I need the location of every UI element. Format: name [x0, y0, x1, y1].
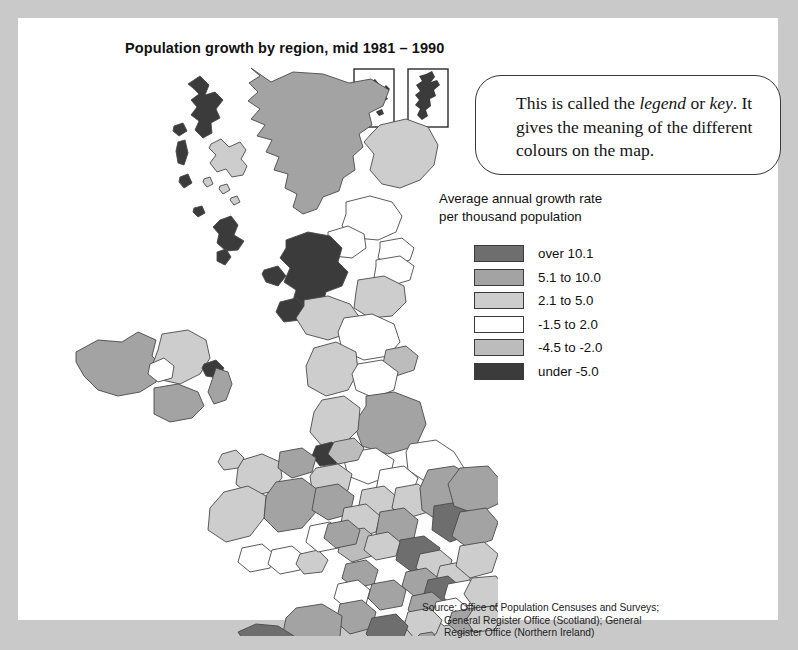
- region-cumbria: [306, 342, 358, 396]
- legend-item: -1.5 to 2.0: [474, 313, 699, 337]
- region-suffolk: [452, 508, 498, 548]
- callout-text-part2: or: [686, 93, 709, 113]
- inset-shetland: [408, 69, 448, 127]
- legend-swatch: [474, 363, 524, 380]
- region-northern-ireland: [76, 330, 232, 422]
- region-grampian: [364, 119, 438, 188]
- callout-italic-key: key: [709, 93, 732, 113]
- figure-page: Population growth by region, mid 1981 – …: [18, 18, 778, 620]
- legend-heading-line2: per thousand population: [439, 208, 699, 226]
- legend-item: -4.5 to -2.0: [474, 336, 699, 360]
- legend-swatch: [474, 245, 524, 262]
- callout-text-part1: This is called the: [516, 93, 639, 113]
- legend-label: under -5.0: [538, 364, 599, 379]
- page-title: Population growth by region, mid 1981 – …: [125, 40, 444, 56]
- legend-heading-line1: Average annual growth rate: [439, 190, 699, 208]
- region-south-glamorgan: [296, 550, 328, 574]
- region-small-isle-c: [230, 196, 240, 205]
- source-line-2: General Register Office (Scotland); Gene…: [422, 615, 659, 628]
- region-wiltshire: [368, 580, 406, 610]
- map-legend: Average annual growth rate per thousand …: [439, 190, 699, 383]
- legend-label: over 10.1: [538, 246, 593, 261]
- callout-italic-legend: legend: [639, 93, 686, 113]
- region-small-isle-b: [219, 184, 230, 194]
- callout-text: This is called the legend or key. It giv…: [516, 92, 768, 163]
- legend-callout-box: This is called the legend or key. It giv…: [475, 75, 781, 175]
- source-note: Source: Office of Population Censuses an…: [422, 602, 659, 640]
- source-line-3: Register Office (Northern Ireland): [422, 627, 659, 640]
- region-arran: [262, 266, 286, 286]
- uk-choropleth-map: .ar{stroke:#4a4a4a;stroke-width:0.9;stro…: [28, 56, 498, 636]
- source-line-1: Source: Office of Population Censuses an…: [422, 602, 659, 613]
- legend-item: 5.1 to 10.0: [474, 266, 699, 290]
- legend-item: under -5.0: [474, 360, 699, 384]
- legend-swatch: [474, 339, 524, 356]
- legend-swatch: [474, 269, 524, 286]
- legend-label: -4.5 to -2.0: [538, 340, 602, 355]
- legend-item: 2.1 to 5.0: [474, 289, 699, 313]
- legend-label: -1.5 to 2.0: [538, 317, 598, 332]
- legend-label: 5.1 to 10.0: [538, 270, 601, 285]
- legend-swatch: [474, 316, 524, 333]
- region-devon: [282, 604, 342, 636]
- region-dyfed: [208, 486, 266, 542]
- region-west-glamorgan: [238, 544, 274, 572]
- legend-items: over 10.1 5.1 to 10.0 2.1 to 5.0 -1.5 to…: [474, 242, 699, 383]
- legend-label: 2.1 to 5.0: [538, 293, 593, 308]
- region-skye: [209, 139, 247, 177]
- region-clwyd: [278, 448, 316, 478]
- region-small-isle-a: [203, 177, 213, 187]
- legend-heading: Average annual growth rate per thousand …: [439, 190, 699, 226]
- legend-swatch: [474, 292, 524, 309]
- legend-item: over 10.1: [474, 242, 699, 266]
